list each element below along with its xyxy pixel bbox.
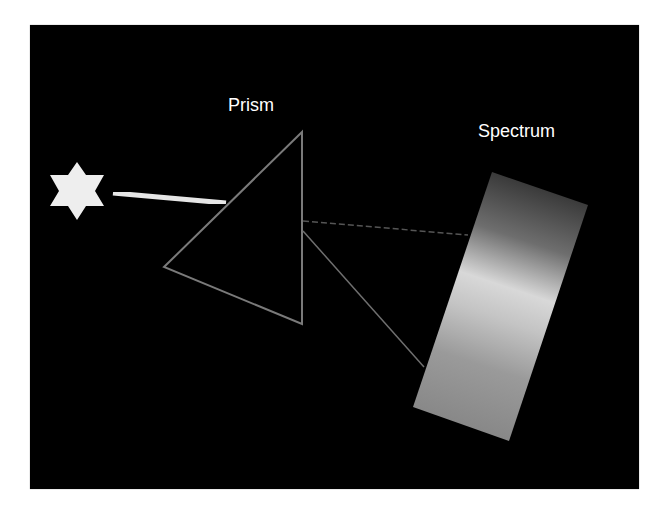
refracted-ray-lower: [303, 231, 424, 367]
prism-label: Prism: [228, 95, 274, 115]
prism-triangle: [164, 132, 302, 324]
slide-canvas: Prism Spectrum: [0, 0, 666, 513]
prism-diagram: [0, 0, 666, 513]
spectrum-panel: [413, 172, 588, 441]
spectrum-label: Spectrum: [478, 121, 555, 141]
incident-light-beam: [113, 193, 226, 203]
refracted-ray-upper: [303, 221, 468, 235]
light-source-star: [50, 162, 104, 220]
star-icon: [50, 162, 104, 220]
